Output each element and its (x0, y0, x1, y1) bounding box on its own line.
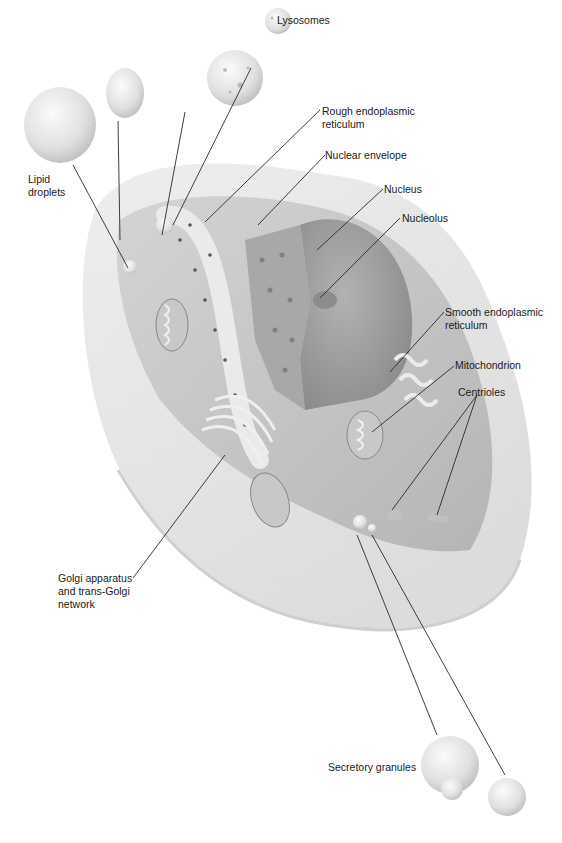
label-nucleolus: Nucleolus (402, 212, 448, 225)
label-rough-er-cont: reticulum (322, 118, 365, 131)
label-lysosomes: Lysosomes (277, 14, 330, 27)
label-nucleus: Nucleus (384, 183, 422, 196)
nucleolus (313, 291, 337, 309)
lysosome-large (207, 50, 263, 106)
label-lipid-droplets-cont: droplets (28, 186, 65, 199)
label-golgi-cont: and trans-Golgi (58, 585, 130, 598)
lipid-droplet-small (106, 68, 144, 118)
lipid-droplet-large (24, 87, 96, 163)
label-lipid-droplets: Lipid (28, 173, 50, 186)
secretory-granule-small-2 (488, 778, 526, 816)
label-rough-er: Rough endoplasmic (322, 105, 415, 118)
label-smooth-er-cont: reticulum (445, 319, 488, 332)
label-golgi: Golgi apparatus (58, 572, 132, 585)
cell-illustration (0, 0, 562, 843)
mitochondrion-3 (347, 411, 383, 459)
secretory-granule-small-1 (441, 778, 463, 800)
label-nuclear-envelope: Nuclear envelope (325, 149, 407, 162)
label-secretory-granules: Secretory granules (328, 761, 416, 774)
mitochondrion-1 (156, 299, 188, 351)
label-golgi-cont2: network (58, 598, 95, 611)
label-centrioles: Centrioles (458, 386, 505, 399)
label-smooth-er: Smooth endoplasmic (445, 306, 543, 319)
label-mitochondrion: Mitochondrion (455, 359, 521, 372)
